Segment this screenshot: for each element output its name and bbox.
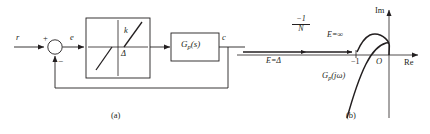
- locus-start-label: E=Δ: [266, 57, 281, 65]
- summing-junction-plus-sign: +: [43, 34, 48, 43]
- real-axis-label: Re: [404, 58, 413, 67]
- output-signal-label: c: [222, 33, 226, 42]
- input-signal-label: r: [16, 33, 19, 42]
- negative-inverse-n-denominator: N: [292, 25, 310, 33]
- error-signal-label: e: [70, 33, 74, 42]
- nyquist-label-arg: (jω): [331, 70, 345, 80]
- negative-inverse-n-numerator: −1: [292, 15, 310, 23]
- caption-panel-b: (b): [346, 110, 356, 120]
- origin-label: O: [376, 57, 382, 66]
- plant-label-arg: (s): [191, 39, 201, 49]
- nonlinearity-slope-label: k: [124, 26, 128, 35]
- summing-junction: [48, 40, 62, 54]
- nonlinearity-deadzone-label: Δ: [121, 49, 126, 58]
- nyquist-curve-label: Gp(jω): [322, 71, 345, 81]
- nyquist-curve-gp-jw: [347, 43, 389, 118]
- negative-inverse-n-label: −1 N: [292, 15, 310, 33]
- summing-junction-minus-sign: −: [58, 57, 63, 66]
- locus-end-label: E=∞: [327, 31, 343, 39]
- panel-b-plot: [237, 10, 418, 118]
- figure-canvas: [0, 0, 430, 134]
- plant-transfer-function-label: Gp(s): [181, 40, 200, 50]
- tick-label-minus-one: −1: [351, 58, 360, 66]
- deadzone-lower-segment: [96, 47, 112, 70]
- panel-a-diagram: [14, 18, 245, 88]
- figure-root: r + − e k Δ Gp(s) c (a) −1 N E=Δ E=∞ −1 …: [0, 0, 430, 134]
- imaginary-axis-label: Im: [375, 6, 384, 15]
- caption-panel-a: (a): [111, 110, 120, 120]
